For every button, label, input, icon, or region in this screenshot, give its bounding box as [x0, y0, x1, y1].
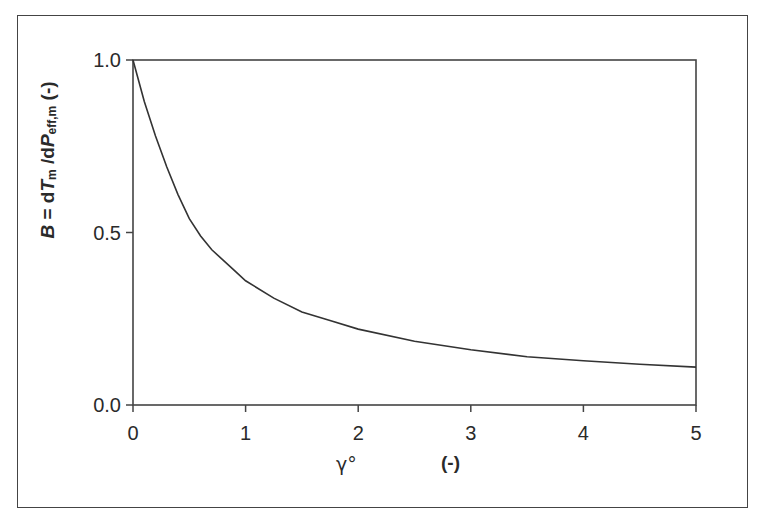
x-axis-unit: (-) [441, 452, 460, 474]
plot-area [133, 60, 696, 405]
y-label-P-sub: eff,m [45, 106, 59, 135]
y-axis-label: B = dTm /dPeff,m (-) [37, 81, 59, 238]
y-tick-label: 1.0 [93, 49, 121, 71]
x-tick-label: 1 [240, 422, 251, 444]
x-tick-label: 2 [353, 422, 364, 444]
x-tick-label: 4 [578, 422, 589, 444]
y-label-T: T [37, 180, 58, 192]
x-tick-label: 5 [690, 422, 701, 444]
y-label-text2: /d [37, 147, 58, 169]
y-tick-label: 0.5 [93, 222, 121, 244]
y-label-symbol: B [37, 225, 58, 239]
y-label-unit: (-) [37, 81, 58, 105]
y-label-text: = d [37, 192, 58, 225]
y-axis: 0.00.51.0 [93, 49, 133, 416]
data-line [133, 60, 696, 367]
y-label-T-sub: m [45, 169, 59, 180]
y-tick-label: 0.0 [93, 394, 121, 416]
x-axis-label: γ° [336, 453, 357, 475]
chart-canvas: 0.00.51.0 012345 [0, 0, 764, 524]
x-tick-label: 3 [465, 422, 476, 444]
x-axis: 012345 [127, 405, 701, 444]
y-label-P: P [37, 134, 58, 147]
x-tick-label: 0 [127, 422, 138, 444]
